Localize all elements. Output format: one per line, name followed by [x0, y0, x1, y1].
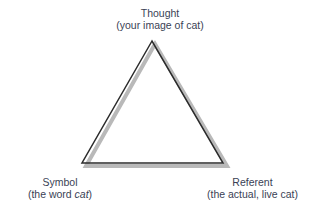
triangle-outline: [82, 41, 223, 163]
triangle-shadow: [86, 44, 227, 166]
thought-label: Thought (your image of cat): [80, 7, 240, 31]
thought-title: Thought: [80, 7, 240, 19]
symbol-subtitle-prefix: (the word: [28, 188, 75, 200]
symbol-subtitle-suffix: ): [89, 188, 93, 200]
thought-subtitle: (your image of cat): [80, 19, 240, 31]
symbol-label: Symbol (the word cat): [0, 176, 120, 200]
symbol-subtitle: (the word cat): [0, 188, 120, 200]
symbol-title: Symbol: [0, 176, 120, 188]
referent-subtitle: (the actual, live cat): [188, 188, 317, 200]
referent-label: Referent (the actual, live cat): [188, 176, 317, 200]
referent-title: Referent: [188, 176, 317, 188]
symbol-subtitle-italic: cat: [75, 188, 89, 200]
